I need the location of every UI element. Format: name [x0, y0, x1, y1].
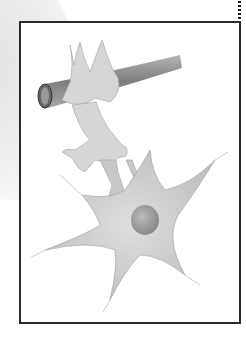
- astrocyte: [62, 40, 142, 205]
- neuron-illustration: [0, 0, 246, 341]
- nucleus: [131, 205, 159, 235]
- neuron: [30, 150, 228, 312]
